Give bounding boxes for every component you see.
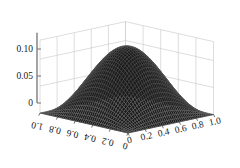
z-tick-label: 0 [28,98,33,108]
z-tick-label: 0.10 [16,44,33,54]
surface-plot-figure: 0.100.050 1.00.80.60.40.20 00.20.40.60.8… [0,0,240,168]
z-tick-label: 0.05 [16,71,33,81]
plot-canvas: 0.100.050 1.00.80.60.40.20 00.20.40.60.8… [0,0,240,168]
